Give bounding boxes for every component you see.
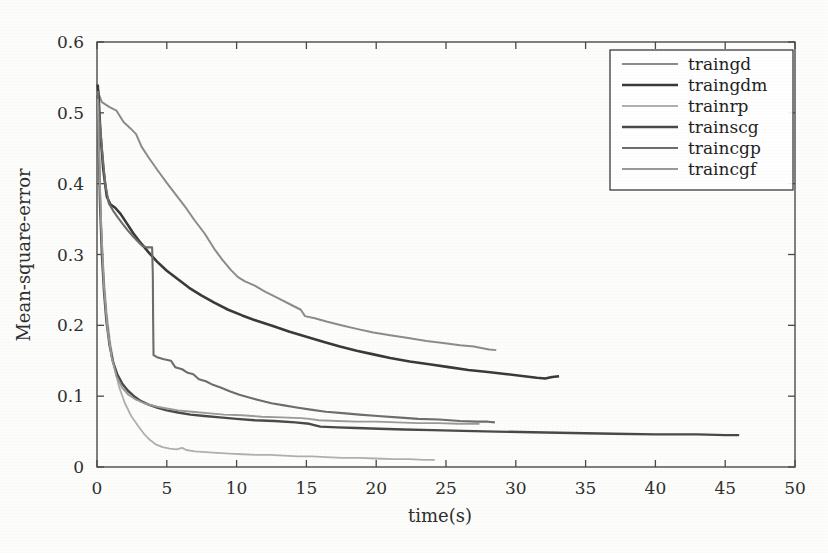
y-tick-label: 0.2 [57, 315, 84, 335]
series-line-traincgp [98, 92, 495, 423]
figure-canvas: 05101520253035404550 00.10.20.30.40.50.6… [0, 0, 828, 553]
x-tick-label: 25 [435, 478, 457, 498]
y-axis-tick-labels: 00.10.20.30.40.50.6 [57, 32, 84, 477]
legend-label-traincgp[interactable]: traincgp [688, 138, 761, 158]
x-tick-label: 40 [645, 478, 667, 498]
y-tick-label: 0.6 [57, 32, 84, 52]
chart-plot[interactable]: 05101520253035404550 00.10.20.30.40.50.6… [0, 0, 828, 553]
chart-legend[interactable]: traingdtraingdmtrainrptrainscgtraincgptr… [610, 50, 793, 190]
y-tick-label: 0.3 [57, 245, 84, 265]
x-tick-label: 15 [296, 478, 318, 498]
x-tick-label: 20 [365, 478, 387, 498]
x-tick-label: 30 [505, 478, 527, 498]
series-line-traingdm [98, 85, 559, 379]
x-tick-label: 45 [714, 478, 736, 498]
y-tick-label: 0.1 [57, 386, 84, 406]
legend-label-traingd[interactable]: traingd [688, 54, 751, 74]
legend-label-traingdm[interactable]: traingdm [688, 75, 767, 95]
legend-label-trainscg[interactable]: trainscg [688, 117, 759, 137]
y-tick-label: 0 [73, 457, 84, 477]
x-axis-tick-labels: 05101520253035404550 [92, 478, 806, 498]
x-axis-title: time(s) [408, 505, 472, 526]
x-tick-label: 35 [575, 478, 597, 498]
y-axis-title: Mean-square-error [13, 168, 34, 342]
legend-label-trainrp[interactable]: trainrp [688, 96, 749, 116]
legend-label-traincgf[interactable]: traincgf [688, 159, 758, 179]
x-tick-label: 50 [784, 478, 806, 498]
x-tick-label: 0 [92, 478, 103, 498]
x-tick-label: 10 [226, 478, 248, 498]
y-tick-label: 0.5 [57, 103, 84, 123]
series-line-traingd [98, 88, 497, 350]
y-tick-label: 0.4 [57, 174, 84, 194]
x-tick-label: 5 [161, 478, 172, 498]
